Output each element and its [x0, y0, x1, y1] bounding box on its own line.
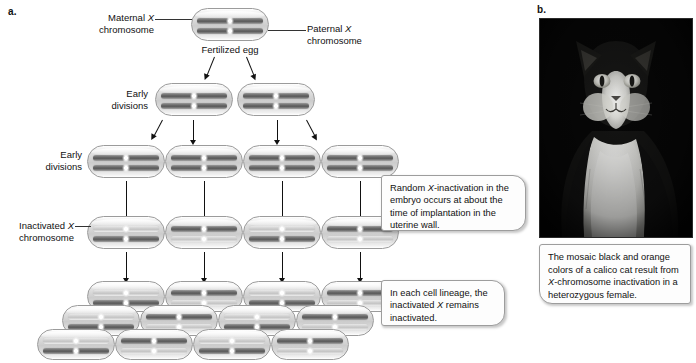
chromosome-paternal-x	[197, 28, 262, 34]
label-inactivated-x: Inactivated Xchromosome	[0, 220, 74, 243]
leader-line-maternal	[155, 19, 192, 20]
cell-early-division-r2-3	[243, 145, 321, 178]
cell-early-division-r2-4	[321, 145, 399, 178]
callout-lineage-text: In each cell lineage, the inactivated X …	[390, 288, 488, 323]
leader-line-inactivated	[75, 226, 91, 227]
cell-early-division-r2-2	[165, 145, 243, 178]
label-early-divisions-2: Earlydivisions	[0, 149, 82, 172]
label-early-divisions-1: Earlydivisions	[68, 88, 148, 111]
cell-early-division-r2-1	[87, 145, 165, 178]
chromosome-maternal-x	[197, 18, 262, 24]
label-fertilized-egg: Fertilized egg	[180, 44, 280, 56]
arrow-egg-to-cell-1	[204, 57, 215, 81]
calico-cat-photo	[539, 18, 693, 238]
arrow-r1c1-to-r2c1	[151, 120, 163, 142]
cell-lineage-r6-4	[271, 329, 349, 360]
cell-early-division-r1-1	[155, 83, 233, 116]
cell-lineage-r6-1	[37, 329, 115, 360]
arrow-r1c2-to-r2c4	[306, 120, 318, 142]
cell-inactivated-r3-1	[87, 216, 165, 249]
callout-lineage: In each cell lineage, the inactivated X …	[381, 280, 505, 326]
arrow-r3c3-to-r4c3	[277, 252, 287, 283]
arrow-r1c2-to-r2c3	[272, 120, 282, 145]
cell-early-division-r1-2	[237, 83, 315, 116]
photo-caption: The mosaic black and orange colors of a …	[539, 244, 691, 304]
leader-line-paternal	[268, 30, 306, 31]
arrow-r1c1-to-r2c2	[188, 120, 198, 145]
cell-fertilized-egg	[191, 8, 269, 41]
callout-random-inactivation-text: Random X-inactivation in the embryo occu…	[390, 183, 509, 230]
cell-lineage-r6-3	[193, 329, 271, 360]
cat-photo-graphic	[540, 19, 692, 237]
cell-inactivated-r3-2	[165, 216, 243, 249]
arrow-r3c4-to-r4c4	[355, 252, 365, 283]
photo-caption-text: The mosaic black and orange colors of a …	[548, 252, 679, 300]
panel-a-letter: a.	[8, 6, 17, 17]
arrow-r3c1-to-r4c1	[121, 252, 131, 283]
callout-random-inactivation: Random X-inactivation in the embryo occu…	[381, 175, 526, 231]
arrow-r3c2-to-r4c2	[199, 252, 209, 283]
cell-inactivated-r3-3	[243, 216, 321, 249]
label-maternal-x: Maternal Xchromosome	[62, 12, 154, 35]
panel-b-letter: b.	[537, 4, 546, 15]
label-paternal-x: Paternal Xchromosome	[307, 23, 399, 46]
arrow-egg-to-cell-2	[246, 57, 257, 81]
cell-lineage-r6-2	[115, 329, 193, 360]
